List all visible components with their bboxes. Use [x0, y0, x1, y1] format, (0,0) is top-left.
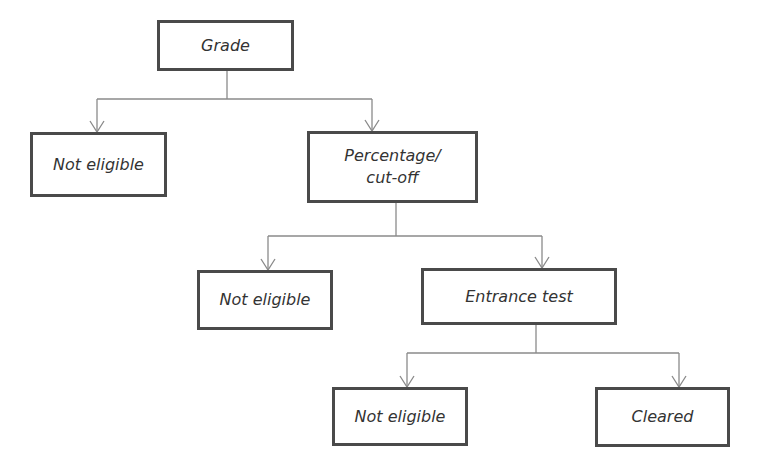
node-entrance-test: Entrance test [421, 268, 617, 325]
node-entrance-test-label: Entrance test [465, 286, 573, 308]
node-not-eligible-2: Not eligible [197, 270, 333, 330]
node-percentage-cutoff: Percentage/ cut-off [307, 131, 478, 203]
node-percentage-cutoff-label: Percentage/ cut-off [344, 145, 440, 189]
eligibility-flowchart: Grade Not eligible Percentage/ cut-off N… [0, 0, 761, 476]
connector-percentage-branches [261, 203, 549, 270]
node-grade: Grade [157, 20, 294, 71]
node-not-eligible-3-label: Not eligible [355, 406, 446, 428]
connector-grade-branches [90, 70, 379, 132]
node-not-eligible-2-label: Not eligible [220, 289, 311, 311]
node-cleared-label: Cleared [632, 406, 694, 428]
node-not-eligible-1-label: Not eligible [53, 154, 144, 176]
node-not-eligible-1: Not eligible [30, 132, 167, 197]
node-cleared: Cleared [595, 387, 730, 447]
node-not-eligible-3: Not eligible [332, 387, 468, 446]
connector-entrance-branches [400, 325, 686, 387]
node-grade-label: Grade [201, 35, 250, 57]
